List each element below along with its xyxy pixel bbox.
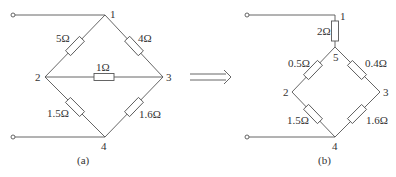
resistor-label-3-4-b: 1.6Ω <box>366 114 388 126</box>
node-label-1: 1 <box>110 8 116 20</box>
diagram-b: 2Ω 0.5Ω 0.4Ω 1.5Ω 1.6Ω 1 2 3 4 5 (b) <box>245 10 389 167</box>
input-terminal-top-b <box>245 13 249 17</box>
resistor-label-1-3: 4Ω <box>138 32 152 44</box>
diagram-a: 5Ω 4Ω 1Ω 1.5Ω 1.6Ω 1 2 3 4 (a) <box>11 8 172 167</box>
node-label-2: 2 <box>35 71 41 83</box>
node-label-3: 3 <box>166 71 172 83</box>
resistor-label-5-3: 0.4Ω <box>365 57 387 69</box>
node-label-4-b: 4 <box>332 140 338 152</box>
resistor-2-3 <box>94 74 114 81</box>
node-label-2-b: 2 <box>283 86 289 98</box>
caption-b: (b) <box>318 154 331 167</box>
resistor-label-1-5: 2Ω <box>317 25 331 37</box>
resistor-label-1-2: 5Ω <box>56 32 70 44</box>
resistor-1-5 <box>332 21 339 41</box>
node-label-5-b: 5 <box>333 51 339 63</box>
node-label-3-b: 3 <box>383 86 389 98</box>
resistor-label-5-2: 0.5Ω <box>288 57 310 69</box>
caption-a: (a) <box>77 154 90 167</box>
resistor-5-3 <box>347 60 366 79</box>
node-label-1-b: 1 <box>340 10 346 22</box>
resistor-3-4-b <box>347 104 366 123</box>
input-terminal-top <box>11 13 15 17</box>
resistor-label-2-4: 1.5Ω <box>47 107 69 119</box>
resistor-label-2-4-b: 1.5Ω <box>287 114 309 126</box>
input-terminal-bottom <box>11 135 15 139</box>
input-terminal-bottom-b <box>245 135 249 139</box>
circuit-diagram: 5Ω 4Ω 1Ω 1.5Ω 1.6Ω 1 2 3 4 (a) <box>0 0 396 177</box>
node-label-4: 4 <box>101 140 107 152</box>
double-arrow-icon <box>190 70 231 84</box>
resistor-label-2-3: 1Ω <box>96 61 110 73</box>
resistor-label-3-4: 1.6Ω <box>139 108 161 120</box>
